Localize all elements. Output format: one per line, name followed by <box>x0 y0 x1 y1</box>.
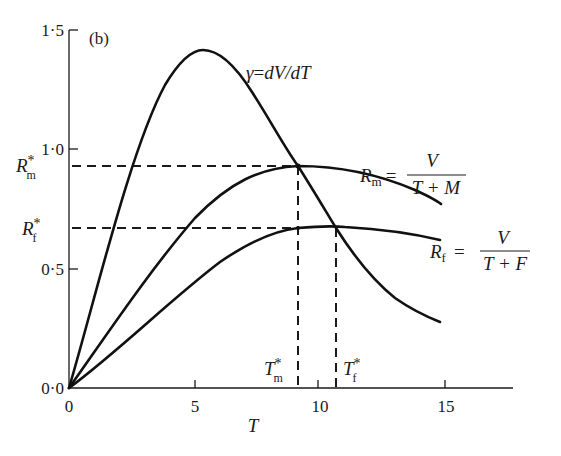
rf-label-num: V <box>497 227 511 248</box>
rm-star-label: R*m <box>15 153 37 182</box>
y-tick-label: 0·5 <box>41 260 64 279</box>
x-tick-label: 10 <box>312 397 329 416</box>
y-tick-label: 0·0 <box>41 379 64 398</box>
curves <box>69 50 441 388</box>
rf-label: Rf= V T + F <box>429 227 530 274</box>
rm-curve <box>69 166 441 388</box>
rm-label: Rm= V T + M <box>359 150 466 198</box>
gamma-label: γ=dV/dT <box>246 62 312 83</box>
rf-label-lhs: Rf= <box>429 241 465 265</box>
rf-star-label: R*f <box>21 216 41 245</box>
x-tick-label: 0 <box>65 397 74 416</box>
x-tick-label: 15 <box>438 397 455 416</box>
tf-star-label: T*f <box>343 356 361 385</box>
y-tick-label: 1·0 <box>41 140 64 159</box>
y-tick-label: 1·5 <box>41 21 64 40</box>
rm-label-den: T + M <box>412 177 462 198</box>
chart: 1·5 1·0 0·5 0·0 0 5 10 15 T (b) γ=dV/dT … <box>0 0 561 456</box>
rm-max-point <box>296 164 301 169</box>
panel-label: (b) <box>89 29 109 48</box>
y-tick-labels: 1·5 1·0 0·5 0·0 <box>41 21 64 398</box>
x-tick-labels: 0 5 10 15 <box>65 397 455 416</box>
rm-label-lhs: Rm= <box>359 165 396 189</box>
x-axis-label: T <box>248 415 260 436</box>
gamma-curve <box>69 50 440 388</box>
rf-max-point <box>296 226 300 230</box>
x-tick-label: 5 <box>191 397 200 416</box>
tm-star-label: T*m <box>264 356 284 385</box>
rf-label-den: T + F <box>483 253 528 274</box>
rm-label-num: V <box>426 150 440 171</box>
